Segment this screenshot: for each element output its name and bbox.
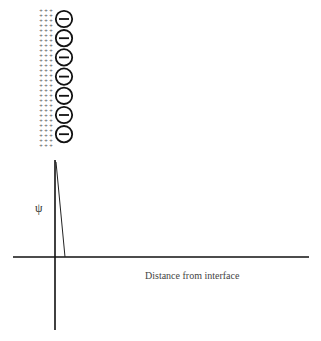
plus-ion-icon: +: [39, 142, 43, 148]
y-axis-label-psi: ψ: [35, 201, 43, 216]
plus-ion-icon: +: [49, 142, 53, 148]
double-layer-diagram: ++++++++++++++++++++++++++++++++++++++++…: [0, 0, 321, 341]
counterion-plus-signs: ++++++++++++++++++++++++++++++++++++++++…: [39, 7, 53, 148]
surface-negative-charges: [56, 11, 72, 143]
plus-ion-icon: +: [44, 142, 48, 148]
potential-plot: [13, 160, 309, 330]
x-axis-label: Distance from interface: [145, 270, 239, 281]
potential-curve: [55, 162, 65, 257]
